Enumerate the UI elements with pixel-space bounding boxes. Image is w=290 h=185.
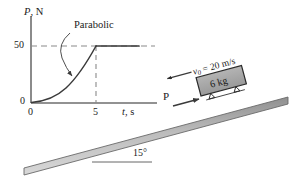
y-axis-title: P, N	[24, 7, 43, 18]
curve-p-of-t	[32, 46, 140, 102]
x-axis-title: t, s	[122, 107, 134, 118]
parabolic-leader-line	[61, 33, 72, 76]
incline-surface	[24, 97, 288, 175]
x-axis-unit: s	[130, 106, 134, 117]
y-tick-label-0: 0	[20, 96, 25, 106]
velocity-arrow	[167, 72, 191, 78]
parabolic-annotation: Parabolic	[74, 20, 114, 31]
physics-figure: P, N t, s 50 0 0 5 Parabolic P 6 kg v0 =…	[0, 0, 290, 185]
x-tick-label-5: 5	[93, 107, 98, 117]
y-tick-label-50: 50	[14, 40, 24, 50]
x-tick-label-0: 0	[28, 107, 33, 117]
incline-angle-label: 15°	[133, 148, 147, 158]
y-axis-unit: N	[36, 6, 44, 17]
force-p-arrow	[173, 99, 199, 106]
force-p-label: P	[163, 91, 169, 102]
